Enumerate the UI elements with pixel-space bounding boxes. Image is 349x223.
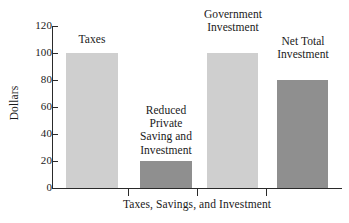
y-tick-label-20: 20 (24, 155, 52, 166)
bar-label-government-investment: Government Investment (193, 8, 273, 34)
y-tick-label-0: 0 (24, 182, 52, 193)
y-tick-label-40: 40 (24, 128, 52, 139)
x-tick-mark-1 (128, 189, 129, 196)
x-tick-mark-2 (197, 189, 198, 196)
bar-label-reduced-private-saving-and-investment: Reduced Private Saving and Investment (126, 104, 206, 157)
y-tick-mark-60 (52, 107, 58, 108)
y-tick-label-60: 60 (24, 101, 52, 112)
bar-government-investment (207, 53, 258, 188)
y-tick-label-80: 80 (24, 74, 52, 85)
x-tick-mark-3 (266, 189, 267, 196)
bar-reduced-private-saving-and-investment (140, 161, 192, 188)
y-tick-label-120: 120 (24, 20, 52, 31)
y-tick-mark-20 (52, 161, 58, 162)
y-axis-title: Dollars (8, 68, 20, 138)
y-tick-label-100: 100 (24, 47, 52, 58)
bar-net-total-investment (277, 80, 328, 188)
bar-chart: Dollars 120 100 80 60 40 20 0 Taxes Redu… (0, 0, 349, 223)
y-tick-mark-120 (52, 26, 58, 27)
y-tick-mark-100 (52, 53, 58, 54)
y-tick-mark-40 (52, 134, 58, 135)
y-tick-mark-80 (52, 80, 58, 81)
bar-label-net-total-investment: Net Total Investment (266, 35, 340, 61)
bar-label-taxes: Taxes (58, 33, 126, 46)
x-axis-title: Taxes, Savings, and Investment (52, 198, 342, 211)
bar-taxes (66, 53, 118, 188)
